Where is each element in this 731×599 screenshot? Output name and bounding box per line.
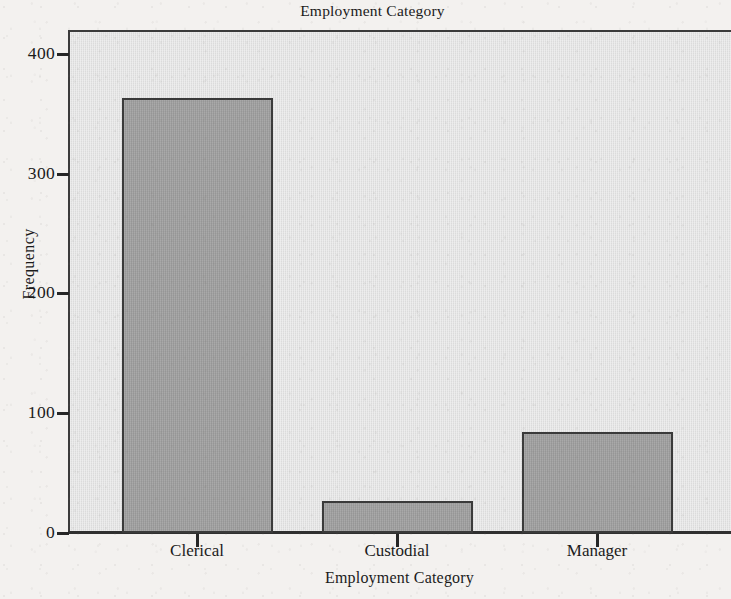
y-axis-tick-label: 400 — [0, 43, 55, 64]
x-axis-tick-label-custodial: Custodial — [307, 541, 487, 561]
bar-manager — [522, 432, 673, 533]
chart-title-text: Employment Category — [300, 2, 445, 19]
y-axis-title: Frequency — [20, 204, 38, 324]
bar-texture — [124, 100, 271, 531]
y-axis-tick — [57, 173, 69, 176]
x-axis-tick-label-clerical: Clerical — [107, 541, 287, 561]
y-axis-tick-label: 300 — [0, 163, 55, 184]
y-axis-tick — [57, 532, 69, 535]
x-axis-title: Employment Category — [68, 569, 731, 587]
bar-custodial — [322, 501, 473, 533]
chart-title: Employment Category — [0, 2, 731, 20]
bar-texture — [324, 503, 471, 531]
y-axis-tick — [57, 292, 69, 295]
y-axis-tick — [57, 412, 69, 415]
bar-clerical — [122, 98, 273, 533]
x-axis-tick-label-manager: Manager — [507, 541, 687, 561]
y-axis-tick — [57, 53, 69, 56]
y-axis-tick-label: 0 — [0, 522, 55, 543]
bar-chart: Employment Category 0100200300400 Cleric… — [0, 0, 731, 599]
y-axis-tick-label: 100 — [0, 402, 55, 423]
bar-texture — [524, 434, 671, 531]
